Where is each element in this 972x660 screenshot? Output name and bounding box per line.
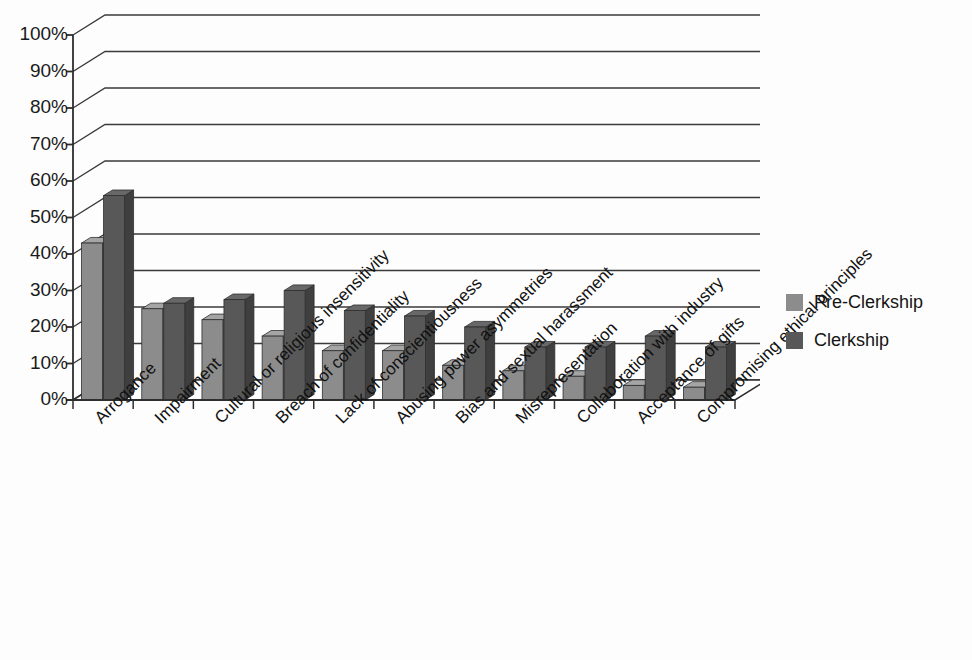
gridline-90 — [73, 52, 760, 72]
y-axis-label-90: 90% — [6, 60, 68, 82]
y-axis-label-60: 60% — [6, 169, 68, 191]
gridline-30 — [73, 271, 760, 291]
legend-item[interactable]: Clerkship — [786, 321, 966, 359]
y-axis-label-70: 70% — [6, 133, 68, 155]
legend-label: Pre-Clerkship — [814, 292, 923, 313]
gridline-50 — [73, 198, 760, 218]
y-axis-label-100: 100% — [6, 23, 68, 45]
legend-item[interactable]: Pre-Clerkship — [786, 283, 966, 321]
gridline-100 — [73, 15, 760, 35]
y-axis-label-20: 20% — [6, 315, 68, 337]
chart-legend: Pre-ClerkshipClerkship — [786, 283, 966, 359]
y-axis-label-80: 80% — [6, 96, 68, 118]
bar-group[interactable] — [82, 190, 134, 400]
gridline-60 — [73, 161, 760, 181]
bar[interactable] — [104, 190, 134, 400]
y-axis-label-30: 30% — [6, 279, 68, 301]
x-axis-category-labels: ArroganceImpairmentCultural or religious… — [0, 398, 760, 628]
y-axis-label-10: 10% — [6, 352, 68, 374]
y-axis-label-40: 40% — [6, 242, 68, 264]
gridline-70 — [73, 125, 760, 145]
bar-front-face — [82, 243, 103, 400]
bar-front-face — [104, 196, 125, 400]
gridline-40 — [73, 234, 760, 254]
bar-side-face — [125, 190, 134, 400]
legend-label: Clerkship — [814, 330, 889, 351]
y-axis-tick-labels: 0%10%20%30%40%50%60%70%80%90%100% — [0, 0, 68, 430]
chart-page: 0%10%20%30%40%50%60%70%80%90%100% Arroga… — [0, 0, 972, 660]
y-axis-label-50: 50% — [6, 206, 68, 228]
gridline-80 — [73, 88, 760, 108]
legend-swatch-icon — [786, 294, 803, 311]
legend-swatch-icon — [786, 332, 803, 349]
